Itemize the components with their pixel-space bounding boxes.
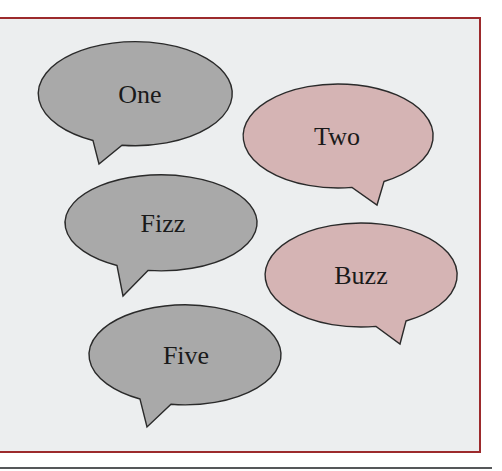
speech-bubble-fizz: Fizz [65,175,257,296]
speech-bubble-five: Five [89,305,281,427]
speech-bubble-one: One [38,42,232,164]
bottom-divider-line [0,467,492,469]
speech-bubble-five-label: Five [163,341,209,370]
speech-bubble-buzz-label: Buzz [334,261,387,290]
speech-bubble-one-label: One [118,80,161,109]
speech-bubble-two: Two [243,84,433,205]
speech-bubble-fizz-label: Fizz [141,209,186,238]
speech-bubble-two-label: Two [314,122,360,151]
speech-bubble-canvas: One Two Fizz Buzz Five [0,0,502,471]
speech-bubble-buzz: Buzz [265,223,457,344]
